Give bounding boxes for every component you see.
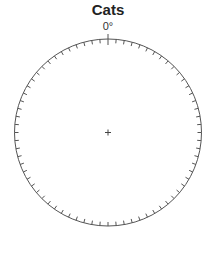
polar-dial: 0° [0,0,222,254]
minor-tick [68,214,70,218]
minor-tick [48,61,51,64]
minor-tick [48,201,51,204]
minor-tick [131,219,132,223]
minor-tick [139,217,140,221]
minor-tick [171,66,174,69]
minor-tick [76,217,77,221]
minor-tick [177,72,180,75]
minor-tick [42,66,45,69]
minor-tick [16,116,20,117]
minor-tick [23,170,27,172]
minor-tick [36,190,39,193]
minor-tick [31,79,34,81]
minor-tick [159,206,161,209]
minor-tick [92,40,93,44]
minor-tick [159,56,161,59]
minor-tick [196,148,200,149]
minor-tick [139,45,140,49]
minor-tick [18,156,22,157]
minor-tick [61,210,63,213]
minor-tick [76,45,77,49]
minor-tick [54,56,56,59]
minor-tick [153,52,155,55]
minor-tick [192,101,196,102]
minor-tick [124,40,125,44]
minor-tick [194,156,198,157]
minor-tick [16,148,20,149]
minor-tick [18,108,22,109]
minor-tick [171,196,174,199]
minor-tick [20,101,24,102]
minor-tick [27,177,30,179]
minor-tick [146,214,148,218]
zero-degree-label: 0° [103,20,114,32]
minor-tick [192,163,196,164]
minor-tick [68,48,70,52]
minor-tick [124,221,125,225]
minor-tick [23,93,27,95]
minor-tick [54,206,56,209]
minor-tick [189,170,193,172]
minor-tick [36,72,39,75]
minor-tick [20,163,24,164]
minor-tick [42,196,45,199]
minor-tick [84,219,85,223]
minor-tick [146,48,148,52]
minor-tick [186,177,189,179]
minor-tick [166,61,169,64]
minor-tick [92,221,93,225]
minor-tick [153,210,155,213]
minor-tick [84,42,85,46]
minor-tick [181,79,184,81]
center-crosshair-icon [105,130,111,136]
minor-tick [31,184,34,186]
minor-tick [166,201,169,204]
minor-tick [194,108,198,109]
minor-tick [196,116,200,117]
minor-tick [27,86,30,88]
minor-tick [189,93,193,95]
minor-tick [177,190,180,193]
minor-tick [181,184,184,186]
minor-tick [61,52,63,55]
minor-tick [131,42,132,46]
minor-tick [186,86,189,88]
